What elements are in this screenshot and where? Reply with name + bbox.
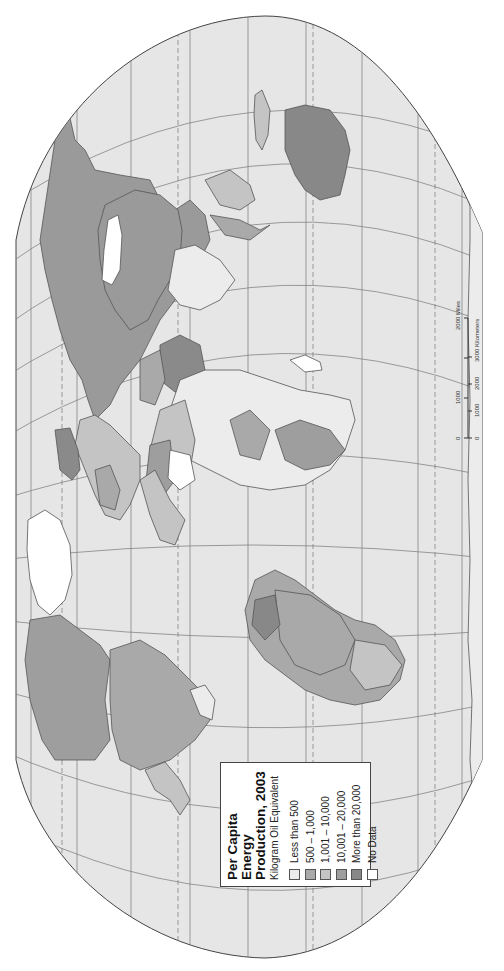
scale-km-1000: 1000 [474,404,480,417]
scale-km-0: 0 [474,437,480,440]
region-antarctica [468,150,504,860]
legend-item: 1,001 – 10,000 [318,769,334,880]
legend-item: 10,001 – 20,000 [334,769,350,880]
scale-km-3000: 3000 Kilometers [474,319,480,362]
legend-swatch [305,869,316,880]
legend-title-line2: Production, 2003 [254,769,268,880]
legend-item: No Data [365,769,381,880]
legend-subtitle: Kilogram Oil Equivalent [269,769,280,880]
legend-swatch [367,869,378,880]
legend-label: More than 20,000 [351,785,362,863]
scale-km-2000: 2000 [474,377,480,390]
legend-label: 1,001 – 10,000 [320,796,331,863]
scale-bar-graphic [448,298,488,448]
legend-item: Less than 500 [287,769,303,880]
legend-swatch [336,869,347,880]
legend-label: 500 – 1,000 [305,810,316,863]
legend-swatch [351,869,362,880]
legend-label: No Data [367,826,378,863]
legend-item: More than 20,000 [349,769,365,880]
scale-bar: 0 1000 2000 Miles 0 1000 2000 3000 Kilom… [448,298,488,448]
legend-title-line1: Per Capita Energy [226,769,254,880]
legend-swatch [320,869,331,880]
legend-label: 10,001 – 20,000 [336,791,347,863]
legend-label: Less than 500 [289,800,300,863]
legend-item: 500 – 1,000 [303,769,319,880]
legend: Per Capita Energy Production, 2003 Kilog… [220,762,371,887]
scale-miles-0: 0 [455,437,461,440]
scale-miles-1000: 1000 [455,391,461,404]
legend-swatch [289,869,300,880]
scale-miles-2000: 2000 Miles [455,301,461,330]
